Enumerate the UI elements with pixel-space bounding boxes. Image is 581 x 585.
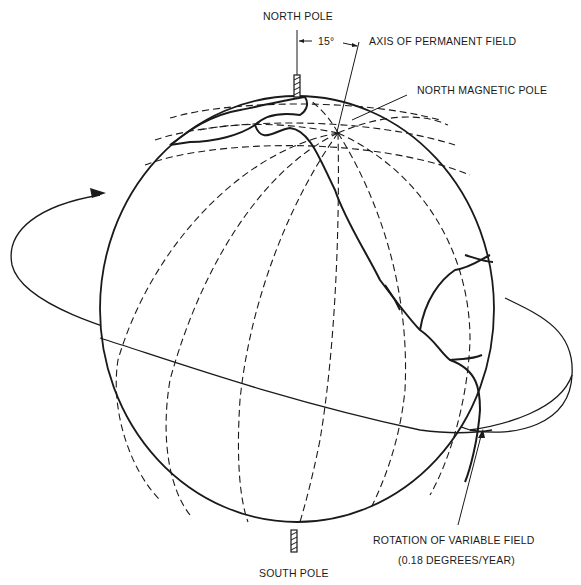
north-axis-stub [294,30,300,97]
leader-rotation [458,432,482,525]
south-axis-stub [291,530,297,552]
label-north-magnetic-pole: NORTH MAGNETIC POLE [417,84,547,96]
label-south-pole: SOUTH POLE [259,567,329,579]
label-north-pole: NORTH POLE [263,10,333,22]
label-rotation-variable-field: ROTATION OF VARIABLE FIELD [373,534,535,546]
label-angle: 15° [318,35,334,47]
arrow-icon [90,188,106,198]
label-axis-permanent-field: AXIS OF PERMANENT FIELD [369,35,516,47]
label-rotation-rate: (0.18 DEGREES/YEAR) [398,554,515,566]
